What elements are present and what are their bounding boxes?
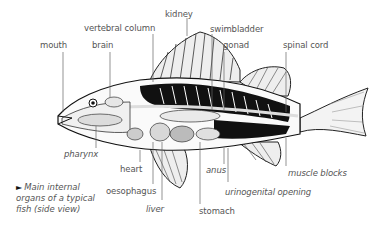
label-spinal-cord: spinal cord [283,40,328,50]
label-muscle-blocks: muscle blocks [288,168,347,178]
pharynx [78,114,122,126]
swimbladder [160,110,220,122]
caption-arrow-icon: ► [16,183,22,192]
label-anus: anus [206,165,226,175]
label-swimbladder: swimbladder [210,24,263,34]
label-pharynx: pharynx [64,149,98,159]
anal-fin [238,142,281,166]
caption-line-2: organs of a typical [16,193,95,203]
label-stomach: stomach [199,206,235,216]
liver [150,123,170,141]
stomach [170,126,194,142]
caption-line-1: Main internal [24,182,80,192]
heart [127,128,143,140]
label-oesophagus: oesophagus [106,186,156,196]
intestine [196,128,220,140]
label-liver: liver [146,204,164,214]
caption-line-3: fish (side view) [16,204,80,214]
label-gonad: gonad [223,40,249,50]
label-heart: heart [120,164,142,174]
label-brain: brain [92,40,113,50]
brain [105,97,123,107]
caudal-fin [300,88,368,136]
label-mouth: mouth [40,40,67,50]
figure-caption: ►Main internal organs of a typical fish … [16,182,111,215]
label-urinogenital-opening: urinogenital opening [225,187,311,197]
label-vertebral-column: vertebral column [84,23,155,33]
label-kidney: kidney [165,9,193,19]
